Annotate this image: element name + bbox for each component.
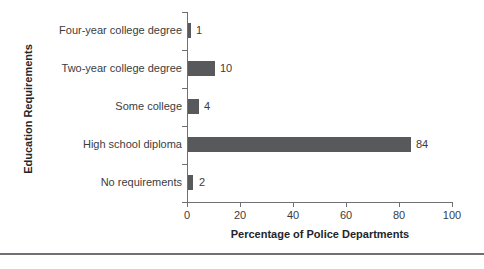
bar-row: Some college 4 bbox=[0, 88, 484, 126]
bar-value-label: 4 bbox=[204, 98, 210, 114]
bar-row: Two-year college degree 10 bbox=[0, 50, 484, 88]
category-label: Some college bbox=[115, 98, 182, 114]
bar-high-school-diploma bbox=[188, 137, 411, 152]
category-label: Two-year college degree bbox=[62, 60, 182, 76]
bottom-divider bbox=[0, 253, 484, 255]
x-axis-tick bbox=[240, 202, 241, 207]
bar-row: Four-year college degree 1 bbox=[0, 12, 484, 50]
category-label: Four-year college degree bbox=[59, 22, 182, 38]
x-axis-title: Percentage of Police Departments bbox=[187, 228, 453, 240]
category-label: High school diploma bbox=[83, 136, 182, 152]
x-tick-label: 80 bbox=[393, 209, 405, 221]
x-axis-line bbox=[187, 202, 453, 203]
x-axis-tick bbox=[346, 202, 347, 207]
bar-row: No requirements 2 bbox=[0, 164, 484, 202]
bar-row: High school diploma 84 bbox=[0, 126, 484, 164]
y-axis-title: Education Requirements bbox=[22, 29, 34, 189]
x-tick-label: 20 bbox=[234, 209, 246, 221]
bar-no-requirements bbox=[188, 175, 193, 190]
x-tick-label: 0 bbox=[184, 209, 190, 221]
bar-value-label: 84 bbox=[416, 136, 428, 152]
bar-value-label: 1 bbox=[196, 22, 202, 38]
bar-chart: Four-year college degree 1 Two-year coll… bbox=[0, 0, 484, 254]
x-tick-label: 40 bbox=[287, 209, 299, 221]
category-label: No requirements bbox=[101, 174, 182, 190]
bar-some-college bbox=[188, 99, 199, 114]
x-axis-tick bbox=[452, 202, 453, 207]
bar-value-label: 10 bbox=[220, 60, 232, 76]
bar-value-label: 2 bbox=[199, 174, 205, 190]
x-axis-tick bbox=[293, 202, 294, 207]
bar-two-year-college-degree bbox=[188, 61, 215, 76]
bar-four-year-college-degree bbox=[188, 23, 191, 38]
x-tick-label: 100 bbox=[443, 209, 461, 221]
x-tick-label: 60 bbox=[340, 209, 352, 221]
chart-screenshot: Four-year college degree 1 Two-year coll… bbox=[0, 0, 484, 269]
x-axis-tick bbox=[187, 202, 188, 207]
x-axis-tick bbox=[399, 202, 400, 207]
